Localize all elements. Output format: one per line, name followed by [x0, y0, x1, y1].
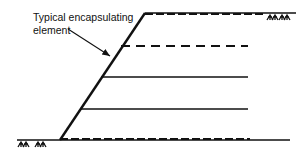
annotation-line-2: element — [33, 24, 133, 37]
annotation-label: Typical encapsulating element — [33, 11, 133, 37]
grass-tuft-icon — [35, 142, 46, 147]
annotation-line-1: Typical encapsulating — [33, 11, 133, 24]
grass-tuft-icon — [267, 15, 278, 20]
grass-tuft-icon — [18, 142, 29, 147]
grass-tuft-icon — [279, 15, 290, 20]
reinforced-slope-diagram: Typical encapsulating element — [0, 0, 308, 157]
